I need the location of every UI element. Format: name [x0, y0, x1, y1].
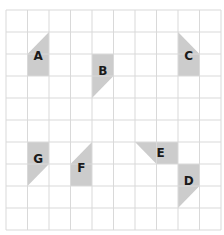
shape-label-a: A: [34, 49, 44, 63]
shape-label-b: B: [98, 64, 107, 78]
shape-label-c: C: [184, 49, 193, 63]
grid-diagram: ABCDEFG: [0, 0, 224, 235]
shape-label-f: F: [77, 161, 85, 175]
shape-label-g: G: [33, 152, 43, 166]
shape-label-d: D: [184, 174, 194, 188]
shape-label-e: E: [156, 146, 164, 160]
